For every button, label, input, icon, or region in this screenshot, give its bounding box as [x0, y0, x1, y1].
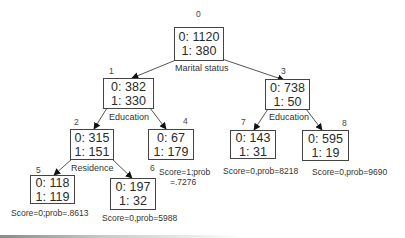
node-8-class0-count: 0: 595 — [308, 132, 343, 146]
node-8-id: 8 — [342, 118, 347, 128]
node-5: 0: 118 1: 119 — [30, 175, 75, 204]
node-1-class1-count: 1: 330 — [111, 94, 146, 108]
node-5-class0-count: 0: 118 — [36, 176, 70, 190]
node-7-class0-count: 0: 143 — [236, 131, 271, 145]
node-5-id: 5 — [36, 165, 41, 175]
node-0-id: 0 — [196, 9, 201, 19]
node-6-class1-count: 1: 32 — [119, 194, 147, 208]
node-0: 0: 1120 1: 380 — [174, 27, 224, 61]
node-7-score: Score=0,prob=8218 — [223, 166, 298, 176]
node-3-split-label: Education — [269, 112, 309, 122]
edge-2-6 — [112, 159, 132, 178]
node-3: 0: 738 1: 50 — [265, 79, 310, 110]
node-8-class1-count: 1: 19 — [312, 146, 340, 160]
node-2-id: 2 — [74, 117, 79, 127]
node-2-class0-count: 0: 315 — [75, 131, 110, 145]
node-2-split-label: Residence — [71, 163, 114, 173]
node-4-class1-count: 1: 179 — [154, 145, 189, 159]
node-1-split-label: Education — [109, 112, 149, 122]
edge-3-7 — [254, 109, 268, 130]
node-3-id: 3 — [281, 66, 286, 76]
edge-2-5 — [54, 159, 72, 175]
node-4-score-line2: =.7276 — [170, 177, 196, 187]
node-1-class0-count: 0: 382 — [111, 80, 146, 94]
node-8: 0: 595 1: 19 — [302, 130, 349, 161]
node-6: 0: 197 1: 32 — [110, 178, 156, 210]
edge-1-2 — [94, 108, 107, 129]
node-3-class1-count: 1: 50 — [274, 95, 302, 109]
node-7-class1-count: 1: 31 — [239, 145, 267, 159]
node-3-class0-count: 0: 738 — [270, 81, 305, 95]
node-4-score-line1: Score=1;prob — [159, 167, 210, 177]
node-7-id: 7 — [241, 117, 246, 127]
edge-0-3 — [222, 59, 284, 80]
edge-1-4 — [150, 108, 166, 129]
node-5-score: Score=0;prob=.8613 — [11, 208, 89, 218]
node-1-id: 1 — [109, 66, 114, 76]
decision-tree-diagram: 0 0: 1120 1: 380 Marital status 1 0: 382… — [0, 0, 405, 238]
node-6-id: 6 — [150, 163, 155, 173]
node-0-split-label: Marital status — [175, 63, 229, 73]
node-6-class0-count: 0: 197 — [116, 180, 151, 194]
node-4-id: 4 — [183, 116, 188, 126]
node-7: 0: 143 1: 31 — [230, 130, 276, 159]
node-5-class1-count: 1: 119 — [36, 190, 70, 204]
node-6-score: Score=0,prob=5988 — [102, 213, 177, 223]
node-2-class1-count: 1: 151 — [75, 145, 110, 159]
bottom-divider — [0, 235, 405, 238]
node-0-class0-count: 0: 1120 — [179, 30, 220, 44]
node-1: 0: 382 1: 330 — [103, 78, 154, 109]
node-2: 0: 315 1: 151 — [70, 129, 114, 160]
node-8-score: Score=0,prob=9690 — [312, 167, 387, 177]
edge-0-1 — [132, 60, 176, 78]
node-4: 0: 67 1: 179 — [148, 129, 194, 160]
node-4-class0-count: 0: 67 — [157, 131, 185, 145]
node-0-class1-count: 1: 380 — [182, 44, 217, 58]
